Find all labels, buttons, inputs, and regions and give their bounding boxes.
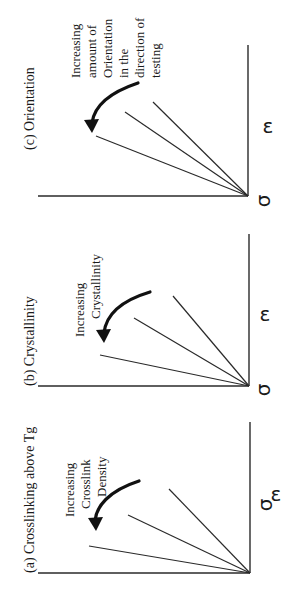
arrowhead-icon [96,329,111,343]
annotation-line: Increasing [72,282,87,337]
epsilon-label: ε [263,114,274,138]
annotation-line: Crosslink [78,459,93,509]
panel-a-title: (a) Crosslinking above Tg [22,427,38,573]
annotation-line: Crystallinity [88,254,103,320]
sigma-label: σ [251,194,275,207]
panel-b-title: (b) Crystallinity [22,296,38,386]
curve-high [96,136,248,196]
increase-arrow [104,292,150,333]
curve-mid [134,318,249,386]
panel-b: (b) Crystallinity ε σ Increasing Crystal… [22,234,275,396]
panel-c: (c) Orientation ε σ Increasing amount of… [22,17,275,207]
epsilon-label: ε [271,482,282,506]
annotation-line: Orientation [100,18,115,78]
annotation-line: direction of [132,17,147,78]
sigma-label: σ [251,383,275,396]
epsilon-label: ε [260,302,271,326]
annotation-line: Density [94,456,109,497]
panel-a: (a) Crosslinking above Tg σ ε Increasing… [22,422,281,573]
stress-strain-diagram: (a) Crosslinking above Tg σ ε Increasing… [0,0,296,605]
figure-stage: (a) Crosslinking above Tg σ ε Increasing… [0,0,296,605]
curve-mid [125,112,248,196]
curve-high [89,546,250,573]
annotation-line: testing [148,43,163,78]
panel-c-title: (c) Orientation [22,67,38,150]
annotation-line: in the [116,49,131,78]
annotation-line: amount of [84,24,99,78]
increase-arrow [92,83,138,123]
curve-low [169,489,250,573]
curve-low [153,102,248,196]
curve-mid [128,515,250,573]
annotation-line: Increasing [62,462,77,517]
annotation-line: Increasing [68,23,83,78]
arrowhead-icon [88,517,103,531]
arrowhead-icon [84,119,99,133]
